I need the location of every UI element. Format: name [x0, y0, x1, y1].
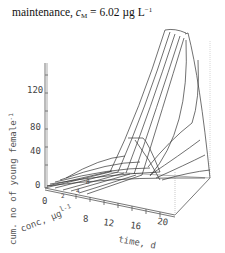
- y-axis-label: conc, µgl-1: [18, 202, 74, 234]
- z-tick-80: 80: [30, 122, 41, 132]
- surface-mesh: [47, 29, 210, 194]
- x-axis-label: time, d: [118, 234, 157, 250]
- surface-plot: 120 80 40 0 cum. no of young female-1 8 …: [0, 0, 225, 253]
- z-axis-label: cum. no of young female-1: [7, 113, 18, 245]
- y-tick-2: 2: [61, 192, 65, 199]
- y-tick-0: 0: [42, 196, 47, 206]
- x-tick-20: 20: [157, 216, 169, 227]
- z-axis: [45, 63, 48, 188]
- z-tick-40: 40: [30, 146, 41, 156]
- z-tick-120: 120: [27, 85, 43, 95]
- x-tick-16: 16: [130, 220, 142, 231]
- x-tick-8: 8: [83, 214, 88, 224]
- x-tick-12: 12: [103, 217, 115, 228]
- z-tick-0: 0: [35, 180, 40, 190]
